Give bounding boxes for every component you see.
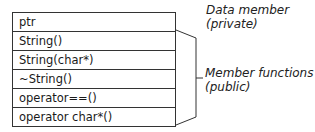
data-member-label: Data member (private) xyxy=(206,3,289,31)
member-functions-label: Member functions (public) xyxy=(205,66,313,94)
